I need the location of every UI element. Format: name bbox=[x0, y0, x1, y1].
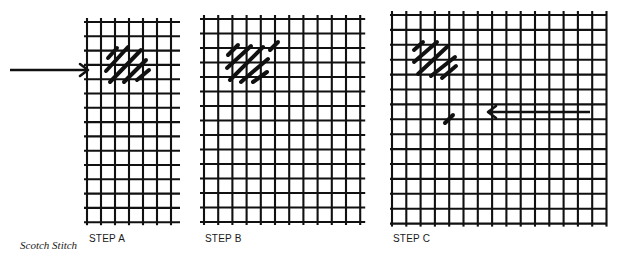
step-c-panel bbox=[390, 11, 607, 227]
step-c-label: STEP C bbox=[393, 233, 430, 244]
step-b-panel bbox=[200, 15, 365, 225]
scotch-stitch-diagram bbox=[0, 0, 619, 257]
step-a-canvas-grid bbox=[84, 18, 180, 225]
step-b-label: STEP B bbox=[205, 233, 242, 244]
step-a-label: STEP A bbox=[89, 233, 125, 244]
step-c-arrow-icon bbox=[488, 106, 590, 118]
step-a-panel bbox=[10, 18, 180, 225]
figure-caption: Scotch Stitch bbox=[20, 239, 77, 251]
step-a-arrow-icon bbox=[10, 64, 88, 76]
step-b-canvas-grid bbox=[200, 15, 365, 225]
